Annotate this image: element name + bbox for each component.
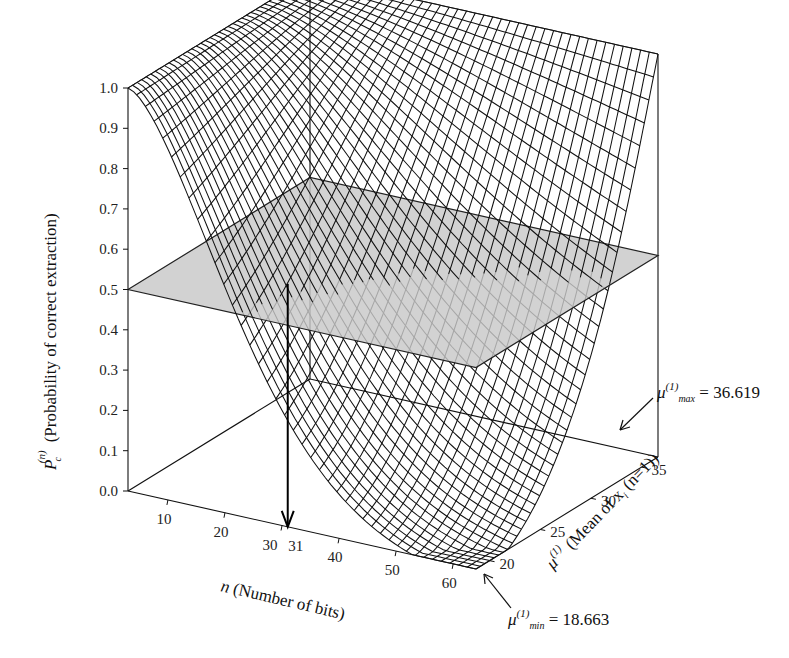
mu-max-annotation: μ(1)max = 36.619 <box>620 380 760 430</box>
svg-text:0.4: 0.4 <box>99 322 118 338</box>
svg-text:0.0: 0.0 <box>99 483 118 499</box>
mu-min-annotation: μ(1)min = 18.663 <box>484 574 609 631</box>
svg-text:40: 40 <box>328 549 343 565</box>
svg-text:0.5: 0.5 <box>99 282 118 298</box>
svg-text:μ(1)max = 36.619: μ(1)max = 36.619 <box>656 380 760 404</box>
svg-text:60: 60 <box>442 575 457 591</box>
n-axis-title: n(Number of bits) <box>219 576 347 623</box>
svg-text:0.8: 0.8 <box>99 161 118 177</box>
svg-text:μ(1)min = 18.663: μ(1)min = 18.663 <box>507 607 609 631</box>
z-axis-title: Pc(n)(Probability of correct extraction) <box>35 213 63 471</box>
svg-text:0.1: 0.1 <box>99 443 118 459</box>
svg-text:30: 30 <box>263 537 278 553</box>
mu-axis-title: μ(1)(Mean of xi (n=1)) <box>539 447 664 575</box>
svg-text:1.0: 1.0 <box>99 80 118 96</box>
surface-plot: 0.00.10.20.30.40.50.60.70.80.91.0 102030… <box>0 0 789 658</box>
svg-text:0.9: 0.9 <box>99 120 118 136</box>
svg-text:20: 20 <box>500 556 515 572</box>
svg-text:0.7: 0.7 <box>99 201 118 217</box>
svg-text:31: 31 <box>288 538 303 554</box>
svg-text:0.3: 0.3 <box>99 362 118 378</box>
svg-text:0.2: 0.2 <box>99 402 118 418</box>
z-axis-ticks: 0.00.10.20.30.40.50.60.70.80.91.0 <box>99 80 128 499</box>
svg-text:10: 10 <box>156 511 171 527</box>
svg-text:20: 20 <box>213 524 228 540</box>
svg-text:0.6: 0.6 <box>99 241 118 257</box>
svg-text:50: 50 <box>385 562 400 578</box>
